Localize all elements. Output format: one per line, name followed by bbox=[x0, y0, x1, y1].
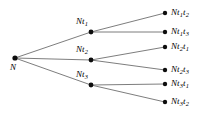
tree-diagram: NNt1Nt2Nt3Nt1t2Nt1t3Nt2t1Nt2t3Nt3t1Nt3t2 bbox=[0, 0, 203, 121]
edge-Nt3-Nt3t1 bbox=[91, 84, 165, 85]
node-label-N: N bbox=[10, 63, 16, 72]
edge-Nt1-Nt1t2 bbox=[91, 13, 165, 32]
node-label-Nt3t2: Nt3t2 bbox=[171, 97, 189, 106]
node-label-Nt1: Nt1 bbox=[76, 17, 88, 26]
edge-Nt3-Nt3t2 bbox=[91, 85, 165, 102]
nodes-group bbox=[12, 11, 167, 104]
node-label-Nt1t2: Nt1t2 bbox=[171, 8, 189, 17]
edge-N-Nt2 bbox=[15, 58, 91, 60]
node-dot-Nt3t2[interactable] bbox=[163, 100, 167, 104]
edge-Nt2-Nt2t1 bbox=[91, 47, 165, 60]
edges-group bbox=[15, 13, 165, 102]
node-dot-Nt2t1[interactable] bbox=[163, 45, 167, 49]
node-dot-Nt2t3[interactable] bbox=[163, 68, 167, 72]
node-dot-Nt1t2[interactable] bbox=[163, 11, 167, 15]
node-label-Nt2t1: Nt2t1 bbox=[171, 42, 189, 51]
node-dot-Nt3t1[interactable] bbox=[163, 82, 167, 86]
node-label-Nt3: Nt3 bbox=[76, 70, 88, 79]
node-label-Nt2: Nt2 bbox=[76, 45, 88, 54]
node-dot-N[interactable] bbox=[12, 55, 17, 60]
node-dot-Nt3[interactable] bbox=[89, 83, 94, 88]
node-label-Nt3t1: Nt3t1 bbox=[171, 79, 189, 88]
edge-Nt2-Nt2t3 bbox=[91, 60, 165, 70]
node-label-Nt1t3: Nt1t3 bbox=[171, 27, 189, 36]
node-dot-Nt1[interactable] bbox=[89, 30, 94, 35]
node-dot-Nt2[interactable] bbox=[89, 58, 94, 63]
node-dot-Nt1t3[interactable] bbox=[163, 30, 167, 34]
node-label-Nt2t3: Nt2t3 bbox=[171, 65, 189, 74]
